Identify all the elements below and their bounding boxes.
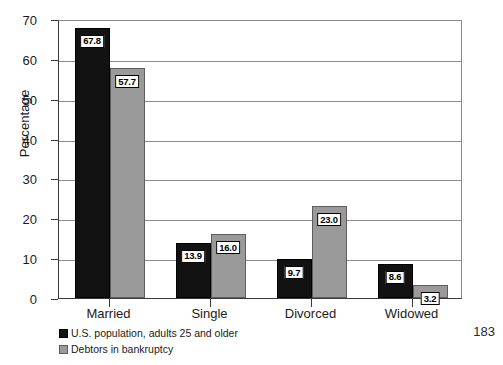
x-tick-label: Widowed xyxy=(357,306,467,321)
y-tick-mark xyxy=(51,299,58,300)
bar-value-label: 9.7 xyxy=(285,266,304,279)
bar: 3.2 xyxy=(413,285,448,298)
gridline xyxy=(59,61,461,62)
y-tick-mark xyxy=(51,179,58,180)
x-tick-label: Divorced xyxy=(256,306,366,321)
bar: 67.8 xyxy=(75,28,110,298)
bar-value-label: 16.0 xyxy=(216,241,240,254)
y-tick-label: 20 xyxy=(0,212,37,227)
y-tick-label: 70 xyxy=(0,13,37,28)
y-tick-mark xyxy=(51,140,58,141)
y-tick-mark xyxy=(51,60,58,61)
y-tick-label: 0 xyxy=(0,292,37,307)
y-axis-title: Percentage xyxy=(17,64,32,184)
legend-item: U.S. population, adults 25 and older xyxy=(59,326,238,340)
bar-value-label: 3.2 xyxy=(421,292,440,305)
bar-value-label: 57.7 xyxy=(115,75,139,88)
legend-swatch-icon xyxy=(59,345,68,354)
bar: 13.9 xyxy=(176,243,211,298)
y-tick-label: 30 xyxy=(0,172,37,187)
bar-value-label: 13.9 xyxy=(181,250,205,263)
y-tick-label: 10 xyxy=(0,252,37,267)
legend-item: Debtors in bankruptcy xyxy=(59,342,238,356)
bar-chart-figure: Percentage 010203040506070 67.857.713.91… xyxy=(0,0,503,365)
y-tick-mark xyxy=(51,100,58,101)
x-tick-label: Married xyxy=(54,306,164,321)
y-tick-label: 40 xyxy=(0,132,37,147)
page-number: 183 xyxy=(473,324,495,339)
y-tick-mark xyxy=(51,20,58,21)
legend-label: U.S. population, adults 25 and older xyxy=(71,327,238,339)
bar: 57.7 xyxy=(110,68,145,298)
y-tick-label: 50 xyxy=(0,92,37,107)
bar: 8.6 xyxy=(378,264,413,298)
bar: 23.0 xyxy=(312,206,347,298)
y-tick-mark xyxy=(51,219,58,220)
legend-label: Debtors in bankruptcy xyxy=(71,343,173,355)
bar-value-label: 8.6 xyxy=(386,271,405,284)
bar-value-label: 67.8 xyxy=(80,35,104,48)
chart-legend: U.S. population, adults 25 and olderDebt… xyxy=(59,326,238,358)
bar: 16.0 xyxy=(211,234,246,298)
bar-value-label: 23.0 xyxy=(317,213,341,226)
y-tick-mark xyxy=(51,259,58,260)
plot-area: 67.857.713.916.09.723.08.63.2 xyxy=(58,20,462,299)
bar: 9.7 xyxy=(277,259,312,298)
x-tick-label: Single xyxy=(155,306,265,321)
y-tick-label: 60 xyxy=(0,52,37,67)
legend-swatch-icon xyxy=(59,329,68,338)
